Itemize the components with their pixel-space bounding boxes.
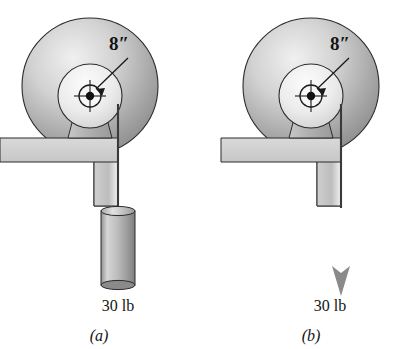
support-bracket-b	[221, 138, 341, 206]
panel-a: 8″ 30 lb (a)	[0, 18, 158, 345]
panel-caption-b: (b)	[302, 327, 321, 345]
force-arrow-b	[332, 208, 350, 296]
radius-label-a: 8″	[109, 33, 129, 54]
load-label-a: 30 lb	[102, 297, 134, 314]
support-bracket-a	[0, 138, 118, 206]
panel-b: 8″ 30 lb (b)	[221, 18, 379, 345]
panel-caption-a: (a)	[90, 327, 109, 345]
hanging-weight-a	[101, 206, 135, 289]
load-label-b: 30 lb	[314, 297, 346, 314]
pulley-figure: 8″ 30 lb (a)	[0, 0, 396, 349]
radius-label-b: 8″	[330, 33, 350, 54]
